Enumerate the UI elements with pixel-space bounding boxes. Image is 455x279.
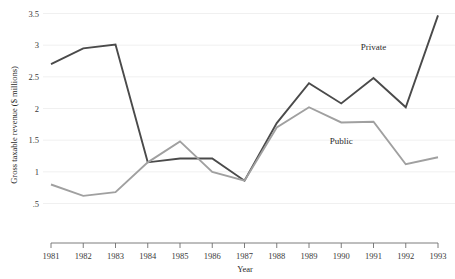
x-tick-label-1987: 1987 xyxy=(236,251,253,261)
x-axis xyxy=(51,243,438,248)
x-tick-label-1990: 1990 xyxy=(333,251,350,261)
x-tick-label-1981: 1981 xyxy=(43,251,60,261)
series-label-public: Public xyxy=(330,136,353,146)
x-tick-label-1988: 1988 xyxy=(268,251,285,261)
y-axis-title: Gross taxable revenue ($ millions) xyxy=(9,66,19,184)
x-tick-label-1982: 1982 xyxy=(75,251,92,261)
x-tick-label-1984: 1984 xyxy=(139,251,157,261)
series-inline-labels: PrivatePublic xyxy=(330,42,387,146)
x-axis-title: Year xyxy=(237,264,253,274)
series-line-public xyxy=(51,107,438,196)
y-tick-label: 1 xyxy=(35,167,39,177)
y-tick-label: 2.5 xyxy=(28,72,39,82)
y-tick-label: .5 xyxy=(33,199,39,209)
x-tick-label-1989: 1989 xyxy=(301,251,318,261)
x-tick-label-1986: 1986 xyxy=(204,251,221,261)
x-tick-label-1992: 1992 xyxy=(397,251,414,261)
y-tick-label: 1.5 xyxy=(28,135,39,145)
x-tick-label-1983: 1983 xyxy=(107,251,124,261)
y-tick-label: 2 xyxy=(35,104,39,114)
line-chart-svg: .511.522.533.5 1981198219831984198519861… xyxy=(0,0,455,279)
y-tick-label: 3.5 xyxy=(28,9,39,19)
y-axis-tick-labels: .511.522.533.5 xyxy=(28,9,39,209)
x-tick-label-1993: 1993 xyxy=(430,251,447,261)
x-axis-tick-labels: 1981198219831984198519861987198819891990… xyxy=(43,251,447,261)
series-line-private xyxy=(51,15,438,180)
chart-figure: .511.522.533.5 1981198219831984198519861… xyxy=(0,0,455,279)
y-tick-label: 3 xyxy=(35,40,39,50)
x-tick-label-1991: 1991 xyxy=(365,251,382,261)
series-label-private: Private xyxy=(361,42,387,52)
x-tick-label-1985: 1985 xyxy=(172,251,189,261)
